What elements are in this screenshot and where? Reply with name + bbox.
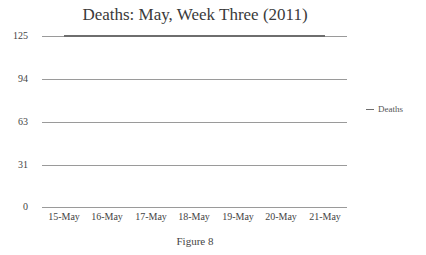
gridline-63 bbox=[42, 122, 347, 123]
x-tick-19-may: 19-May bbox=[216, 211, 260, 222]
y-tick-125: 125 bbox=[0, 30, 28, 41]
legend: Deaths bbox=[366, 104, 403, 114]
y-tick-94: 94 bbox=[0, 73, 28, 84]
gridline-94 bbox=[42, 79, 347, 80]
x-tick-15-may: 15-May bbox=[42, 211, 86, 222]
x-tick-20-may: 20-May bbox=[259, 211, 303, 222]
series-line-deaths bbox=[64, 35, 325, 37]
chart-title: Deaths: May, Week Three (2011) bbox=[0, 5, 390, 25]
x-tick-18-may: 18-May bbox=[172, 211, 216, 222]
legend-label-deaths: Deaths bbox=[378, 104, 403, 114]
figure-caption: Figure 8 bbox=[0, 235, 390, 247]
legend-swatch-deaths bbox=[366, 109, 374, 110]
y-tick-0: 0 bbox=[0, 201, 28, 212]
x-tick-21-may: 21-May bbox=[303, 211, 347, 222]
x-tick-17-may: 17-May bbox=[129, 211, 173, 222]
y-tick-31: 31 bbox=[0, 159, 28, 170]
x-tick-16-may: 16-May bbox=[85, 211, 129, 222]
y-tick-63: 63 bbox=[0, 116, 28, 127]
gridline-0 bbox=[42, 207, 347, 208]
gridline-31 bbox=[42, 165, 347, 166]
